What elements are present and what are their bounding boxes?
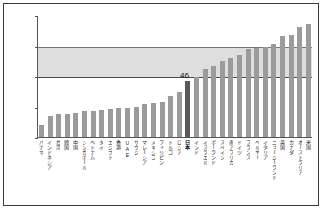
x-axis-label: UAE: [124, 140, 129, 202]
bar: [73, 113, 78, 137]
x-axis-label: イスラエル: [202, 140, 207, 202]
x-axis-label: 韓国: [64, 140, 69, 202]
y-tick-mark: [35, 77, 38, 78]
bar: [160, 102, 165, 137]
x-axis-label: 米国: [306, 140, 311, 202]
highlight-value-label: 46: [180, 71, 189, 80]
bar: [246, 49, 251, 137]
y-tick-mark: [35, 138, 38, 139]
bar: [177, 92, 182, 137]
x-axis-label: マレーシア: [142, 140, 147, 202]
bar: [271, 44, 276, 137]
bar: [263, 47, 268, 137]
bar: [56, 114, 61, 137]
bar: [297, 27, 302, 137]
y-tick-mark: [35, 108, 38, 109]
bar: [228, 58, 233, 137]
bar: [194, 77, 199, 137]
x-axis-label: オーストラリア: [297, 140, 302, 202]
x-axis-label: 英国: [280, 140, 285, 202]
bar: [185, 81, 190, 137]
bar: [116, 108, 121, 137]
x-axis-label: 台湾: [55, 140, 60, 202]
bar: [211, 66, 216, 137]
x-axis-label: ニュージーランド: [271, 140, 276, 202]
x-axis-label: ロシア: [176, 140, 181, 202]
x-axis-labels: パナマインドネシア台湾韓国中国シンガポールベトナムタイエジプト香港UAEサウジマ…: [37, 140, 312, 204]
bar: [65, 114, 70, 137]
x-axis-label: エジプト: [107, 140, 112, 202]
bar: [91, 111, 96, 137]
bar: [237, 55, 242, 137]
bar: [151, 103, 156, 137]
x-axis-label: スペイン: [219, 140, 224, 202]
x-axis-label: ドイツ: [237, 140, 242, 202]
bar: [125, 108, 130, 137]
x-axis-label: 南アフリカ: [228, 140, 233, 202]
x-axis-label: フランス: [245, 140, 250, 202]
bar: [48, 116, 53, 137]
x-axis-label: シンガポール: [81, 140, 86, 202]
chart-frame: 0255075100 46 パナマインドネシア台湾韓国中国シンガポールベトナムタ…: [3, 3, 319, 206]
x-axis-label: カナダ: [289, 140, 294, 202]
bar: [254, 48, 259, 137]
y-tick-mark: [35, 16, 38, 17]
x-axis-label: フィリピン: [159, 140, 164, 202]
x-axis-label: パナマ: [38, 140, 43, 202]
x-axis-label: インドネシア: [47, 140, 52, 202]
plot-area: 0255075100 46: [37, 16, 312, 138]
bar: [203, 69, 208, 137]
x-axis-label: 日本: [185, 140, 190, 202]
bar: [142, 104, 147, 137]
bar: [99, 110, 104, 137]
bar: [306, 24, 311, 137]
x-axis-label: 中国: [73, 140, 78, 202]
x-axis-label: インド: [194, 140, 199, 202]
bar: [134, 107, 139, 138]
bar: [289, 35, 294, 137]
bar: [220, 61, 225, 137]
x-axis-label: ポーランド: [211, 140, 216, 202]
bar: [168, 96, 173, 137]
x-axis-label: ベトナム: [90, 140, 95, 202]
bar: [280, 36, 285, 137]
bar: [108, 109, 113, 137]
x-axis-label: サウジ: [133, 140, 138, 202]
bar: [39, 125, 44, 137]
bar: [82, 111, 87, 137]
x-axis-label: 香港: [116, 140, 121, 202]
x-axis-label: トルコ: [168, 140, 173, 202]
x-axis-label: イタリア: [263, 140, 268, 202]
bar-series: [38, 16, 312, 137]
x-axis-label: ベルギー: [254, 140, 259, 202]
y-tick-mark: [35, 47, 38, 48]
x-axis-label: メキシコ: [150, 140, 155, 202]
x-axis-label: タイ: [98, 140, 103, 202]
